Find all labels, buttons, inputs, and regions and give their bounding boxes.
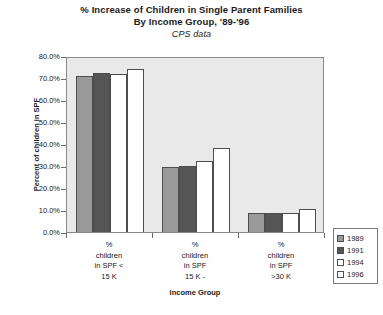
bar-group: [239, 58, 325, 232]
bar-1994: [282, 213, 299, 232]
x-category-label-line: %: [149, 240, 241, 251]
y-tick-label: 30.0%: [12, 163, 60, 171]
chart-subtitle: CPS data: [0, 28, 383, 41]
bar-1991: [265, 213, 282, 232]
x-category-label-line: children: [235, 251, 327, 262]
y-tick-label: 40.0%: [12, 141, 60, 149]
bars-layer: [67, 58, 323, 232]
chart-title-line-2: By Income Group, '89-'96: [0, 16, 383, 28]
y-tick-label: 80.0%: [12, 53, 60, 61]
x-category-label: %childrenin SPF>30 K: [235, 240, 327, 282]
x-category-label: %childrenin SPF <15 K: [63, 240, 155, 282]
bar-group: [153, 58, 239, 232]
bar-1996: [213, 148, 230, 232]
x-category-label-line: in SPF: [149, 261, 241, 272]
legend-swatch-icon: [337, 271, 344, 278]
legend-item-1994[interactable]: 1994: [337, 256, 374, 268]
legend-item-1996[interactable]: 1996: [337, 268, 374, 280]
y-tick-label: 50.0%: [12, 119, 60, 127]
x-axis-title: Income Group: [66, 288, 324, 297]
chart-title-line-1: % Increase of Children in Single Parent …: [0, 4, 383, 16]
legend-label: 1996: [347, 270, 364, 279]
bar-1996: [299, 209, 316, 232]
x-category-label-line: 15 K: [63, 272, 155, 283]
plot-area: [66, 57, 324, 233]
bar-group: [67, 58, 153, 232]
legend-swatch-icon: [337, 235, 344, 242]
bar-1991: [93, 73, 110, 233]
legend-label: 1994: [347, 258, 364, 267]
legend-label: 1991: [347, 246, 364, 255]
x-category-label: %childrenin SPF15 K -: [149, 240, 241, 282]
x-category-label-line: children: [149, 251, 241, 262]
bar-1996: [127, 69, 144, 232]
bar-1989: [248, 213, 265, 232]
legend-swatch-icon: [337, 259, 344, 266]
x-category-label-line: in SPF <: [63, 261, 155, 272]
legend-label: 1989: [347, 234, 364, 243]
y-tick-label: 70.0%: [12, 75, 60, 83]
bar-1989: [162, 167, 179, 232]
y-tick-label: 60.0%: [12, 97, 60, 105]
x-tick-mark: [324, 233, 325, 238]
legend-swatch-icon: [337, 247, 344, 254]
x-category-label-line: %: [63, 240, 155, 251]
legend-item-1989[interactable]: 1989: [337, 232, 374, 244]
y-tick-label: 10.0%: [12, 207, 60, 215]
bar-1994: [196, 161, 213, 233]
x-tick-mark: [66, 233, 67, 238]
y-tick-label: 20.0%: [12, 185, 60, 193]
x-category-label-line: children: [63, 251, 155, 262]
x-category-label-line: %: [235, 240, 327, 251]
x-category-label-line: >30 K: [235, 272, 327, 283]
bar-1991: [179, 166, 196, 232]
x-tick-mark: [152, 233, 153, 238]
bar-1994: [110, 74, 127, 232]
x-category-label-line: in SPF: [235, 261, 327, 272]
bar-1989: [76, 76, 93, 232]
y-tick-label: 0.0%: [12, 229, 60, 237]
chart-title-block: % Increase of Children in Single Parent …: [0, 4, 383, 41]
legend-item-1991[interactable]: 1991: [337, 244, 374, 256]
x-category-label-line: 15 K -: [149, 272, 241, 283]
chart-legend: 1989199119941996: [333, 228, 378, 284]
x-tick-mark: [238, 233, 239, 238]
